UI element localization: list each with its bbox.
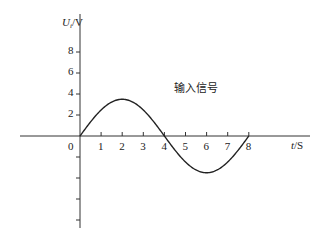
y-tick-label: 2 (68, 107, 74, 119)
y-axis-label: Ui/V (62, 16, 83, 30)
y-tick-label: 8 (68, 44, 74, 56)
annotation-input-signal: 输入信号 (174, 81, 218, 95)
x-tick-label: 5 (183, 140, 189, 152)
origin-label: 0 (68, 140, 74, 152)
x-tick-label: 8 (246, 140, 252, 152)
x-tick-label: 2 (119, 140, 125, 152)
y-tick-label: 4 (68, 86, 74, 98)
x-tick-label: 6 (204, 140, 210, 152)
x-axis-label: t/S (291, 139, 303, 151)
x-tick-label: 3 (140, 140, 146, 152)
y-ticks: 2468 (68, 44, 80, 220)
x-tick-label: 4 (161, 140, 167, 152)
sine-wave-chart: Ui/V t/S 0 2468 12345678 输入信号 (0, 0, 323, 244)
x-tick-label: 1 (98, 140, 104, 152)
y-tick-label: 6 (68, 65, 74, 77)
x-tick-label: 7 (225, 140, 231, 152)
